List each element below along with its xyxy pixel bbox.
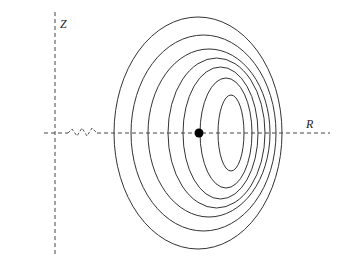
r-axis-label: R bbox=[305, 117, 314, 131]
flux-surface-diagram: Z R bbox=[0, 0, 340, 263]
magnetic-axis-dot bbox=[195, 129, 204, 138]
z-axis-label: Z bbox=[60, 17, 67, 31]
axis-break-zigzag bbox=[68, 128, 97, 136]
